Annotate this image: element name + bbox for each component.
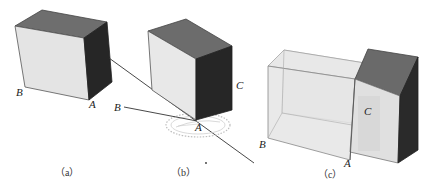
panel-c: B A C （c） — [259, 49, 418, 180]
caption-c: （c） — [318, 169, 342, 180]
label-a-A: A — [88, 98, 96, 110]
label-a-B: B — [16, 86, 23, 98]
label-c-A: A — [343, 157, 351, 169]
label-b-C: C — [236, 79, 244, 91]
panel-a: B A （a） — [15, 10, 112, 178]
label-c-B: B — [259, 138, 266, 150]
panel-b: B A C （b） — [114, 19, 244, 178]
figure-canvas: B A （a） B A C （b） — [0, 0, 428, 189]
box-b — [148, 19, 232, 120]
box-b-side-face — [196, 46, 232, 120]
label-c-C: C — [364, 105, 372, 117]
caption-b: （b） — [171, 167, 196, 178]
box-a-front-face — [15, 26, 89, 100]
label-b-B: B — [114, 101, 121, 113]
box-a — [15, 10, 112, 100]
label-b-A: A — [194, 121, 202, 133]
box-c-transparent-front — [268, 66, 355, 160]
caption-a: （a） — [55, 167, 79, 178]
box-c-solid — [350, 49, 418, 163]
dot-mark — [205, 162, 207, 164]
